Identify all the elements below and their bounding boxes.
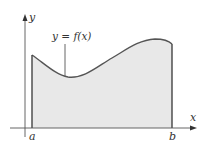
y-axis-label: y	[28, 11, 36, 24]
shaded-area-region	[32, 39, 172, 128]
x-axis-arrow-icon	[190, 126, 197, 131]
y-axis-arrow-icon	[23, 14, 28, 21]
bound-a-label: a	[29, 130, 36, 143]
area-under-curve-diagram: y x y = f(x) a b	[0, 0, 206, 147]
curve-label: y = f(x)	[51, 30, 91, 42]
x-axis-label: x	[190, 111, 197, 124]
bound-b-label: b	[169, 130, 176, 143]
